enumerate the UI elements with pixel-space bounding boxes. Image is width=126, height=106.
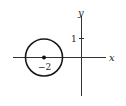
y-axis-label: y xyxy=(77,7,84,18)
center-label: −2 xyxy=(38,62,51,72)
x-axis-label: x xyxy=(109,52,115,63)
y-tick-label: 1 xyxy=(71,34,77,44)
center-point xyxy=(42,56,46,60)
diagram-canvas: y x 1 −2 xyxy=(0,0,126,106)
